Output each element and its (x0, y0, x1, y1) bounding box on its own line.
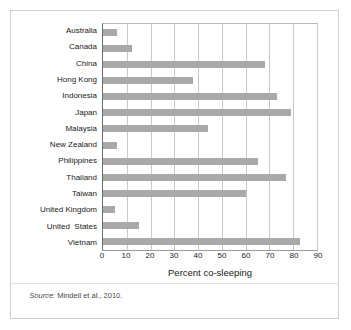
y-axis-label: Indonesia (11, 88, 102, 104)
bar-row (103, 56, 317, 72)
bar-row (103, 121, 317, 137)
x-axis-tick: 0 (100, 252, 104, 260)
y-axis-label: Thailand (11, 170, 102, 186)
y-axis-label: Taiwan (11, 186, 102, 202)
bar (103, 61, 265, 68)
x-axis-tick: 10 (122, 252, 131, 260)
bar (103, 158, 258, 165)
y-axis-category-labels: AustraliaCanadaChinaHong KongIndonesiaJa… (11, 23, 102, 251)
y-axis-label: Hong Kong (11, 72, 102, 88)
x-axis-tick: 20 (146, 252, 155, 260)
bar-row (103, 105, 317, 121)
bar-row (103, 153, 317, 169)
x-axis-tick: 40 (194, 252, 203, 260)
x-axis-tick: 70 (266, 252, 275, 260)
y-axis-label: Canada (11, 39, 102, 55)
bar (103, 93, 277, 100)
y-axis-label: Vietnam (11, 235, 102, 251)
bar-row (103, 218, 317, 234)
bar-row (103, 137, 317, 153)
bar-row (103, 72, 317, 88)
y-axis-label: Philippines (11, 153, 102, 169)
bar (103, 125, 208, 132)
bar-series (103, 24, 317, 250)
bar-row (103, 40, 317, 56)
bar-row (103, 202, 317, 218)
y-axis-label: China (11, 56, 102, 72)
y-axis-label: United Kingdom (11, 202, 102, 218)
bar (103, 29, 117, 36)
figure-container: AustraliaCanadaChinaHong KongIndonesiaJa… (10, 10, 339, 319)
bar (103, 77, 193, 84)
bar-row (103, 24, 317, 40)
x-axis-tick: 90 (314, 252, 323, 260)
gridline (317, 24, 318, 250)
bar (103, 190, 246, 197)
x-axis-tick: 80 (290, 252, 299, 260)
bar (103, 142, 117, 149)
source-label: Source: (29, 291, 55, 300)
y-axis-label: United States (11, 218, 102, 234)
y-axis-label: Malaysia (11, 121, 102, 137)
y-axis-label: Australia (11, 23, 102, 39)
bar-row (103, 234, 317, 250)
y-axis-label: Japan (11, 104, 102, 120)
bar (103, 222, 139, 229)
y-axis-label: New Zealand (11, 137, 102, 153)
plot-area (102, 23, 318, 251)
source-citation: Mindell et al., 2010. (55, 291, 122, 300)
bar (103, 109, 291, 116)
bar-chart: AustraliaCanadaChinaHong KongIndonesiaJa… (11, 11, 340, 273)
x-axis-title: Percent co-sleeping (102, 267, 318, 278)
x-axis-tick: 30 (170, 252, 179, 260)
bar-row (103, 185, 317, 201)
x-axis-tick: 60 (242, 252, 251, 260)
bar-row (103, 169, 317, 185)
bar (103, 45, 132, 52)
x-axis-tick-labels: 0102030405060708090 (102, 252, 318, 264)
source-note: Source: Mindell et al., 2010. (21, 282, 122, 309)
bar-row (103, 89, 317, 105)
bar (103, 174, 286, 181)
x-axis-tick: 50 (218, 252, 227, 260)
bar (103, 238, 300, 245)
bar (103, 206, 115, 213)
